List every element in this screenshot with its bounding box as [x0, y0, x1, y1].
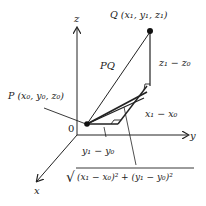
- segment-pq-label: PQ: [99, 60, 115, 71]
- p-leader-line: [44, 108, 86, 124]
- segment-dz-label: z₁ − z₀: [158, 57, 191, 68]
- point-q-label: Q (x₁, y₁, z₁): [110, 9, 168, 20]
- distance-diagram: z y x 0 Q (x₁, y₁, z₁) P (x₀, y₀, z₀) PQ…: [0, 0, 206, 206]
- z-axis-label: z: [73, 13, 80, 24]
- point-p-label: P (x₀, y₀, z₀): [7, 90, 64, 101]
- hyp-leader-line: [124, 107, 136, 165]
- origin-label: 0: [68, 123, 74, 134]
- point-q: [147, 28, 153, 34]
- segment-dx-label: x₁ − x₀: [145, 108, 178, 119]
- point-p: [84, 121, 90, 127]
- x-axis-label: x: [34, 185, 40, 196]
- y-axis-label: y: [189, 130, 196, 141]
- radical-sign: √: [66, 169, 75, 185]
- hyp-xy-label: (x₁ − x₀)² + (y₁ − y₀)²: [77, 172, 173, 182]
- segment-dy-label: y₁ − y₀: [81, 145, 115, 156]
